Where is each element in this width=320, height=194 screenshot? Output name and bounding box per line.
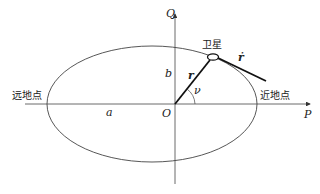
velocity-vector-label: ṙ — [238, 52, 244, 63]
apogee-label: 远地点 — [12, 91, 42, 101]
semi-major-axis-label: a — [106, 107, 113, 118]
radius-vector — [175, 60, 210, 104]
true-anomaly-label: ν — [194, 85, 201, 96]
semi-minor-axis-label: b — [165, 68, 172, 79]
perigee-label: 近地点 — [260, 91, 290, 101]
satellite-label: 卫星 — [202, 40, 222, 50]
q-axis-label: Q — [166, 8, 175, 19]
orbit-diagram: Q P O 远地点 近地点 卫星 a b r ṙ ν — [0, 0, 320, 194]
radius-vector-label: r — [188, 70, 194, 81]
satellite-icon — [208, 54, 219, 60]
origin-label: O — [162, 108, 171, 119]
p-axis-label: P — [304, 109, 311, 120]
